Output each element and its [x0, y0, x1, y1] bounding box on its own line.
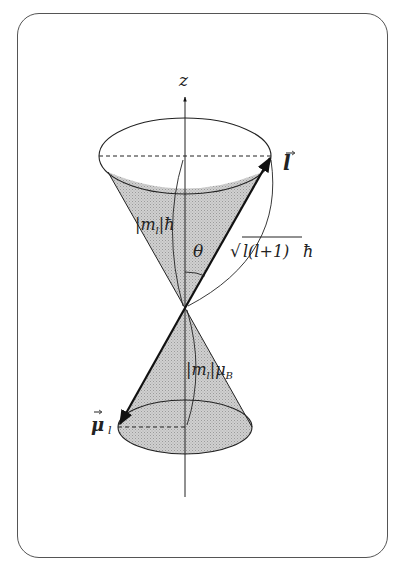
svg-text:l(l+1): l(l+1): [243, 242, 289, 261]
svg-text:l: l: [108, 424, 112, 437]
svg-text:l: l: [283, 151, 291, 175]
mlhbar-label: |ml|ħ: [135, 215, 174, 236]
z-axis-label: z: [178, 70, 189, 90]
svg-text:√: √: [230, 241, 241, 261]
l-vector-label: l: [283, 151, 295, 175]
svg-text:|ml|μB: |ml|μB: [186, 360, 233, 381]
theta-label: θ: [193, 241, 203, 261]
svg-text:|ml|ħ: |ml|ħ: [135, 215, 174, 236]
svg-text:μ: μ: [91, 414, 104, 435]
svg-text:ħ: ħ: [303, 242, 313, 261]
mu-vector-label: μ l: [91, 410, 112, 437]
magnitude-label: √ l(l+1) ħ: [230, 237, 313, 261]
cone-diagram: z l |ml|ħ θ √ l(l+1) ħ |ml|μB μ l: [0, 0, 401, 569]
mlmub-label: |ml|μB: [186, 360, 233, 381]
